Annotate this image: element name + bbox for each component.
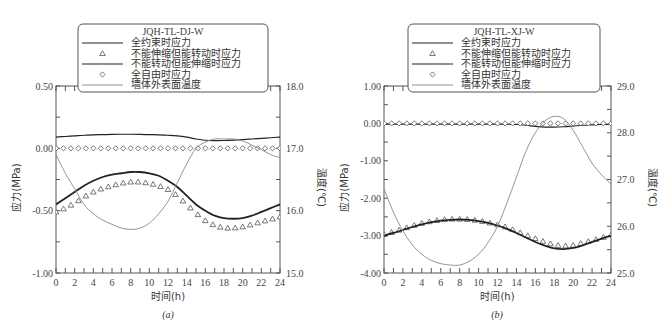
diamond-marker	[188, 146, 193, 151]
diamond-marker	[83, 146, 88, 151]
chart-panel-a: 024681012141618202224-1.00-0.500.000.501…	[10, 24, 328, 321]
diamond-marker	[233, 146, 238, 151]
x-tick-label: 6	[110, 277, 115, 288]
diamond-marker	[502, 121, 507, 126]
x-tick-label: 6	[438, 277, 443, 288]
legend: JQH-TL-XJ-W全约束时应力不能伸缩但能转动时应力不能转动但能伸缩时应力全…	[408, 24, 600, 92]
x-tick-label: 14	[511, 277, 521, 288]
diamond-marker	[510, 121, 515, 126]
diamond-marker	[61, 146, 66, 151]
diamond-marker	[270, 146, 275, 151]
diamond-marker	[98, 146, 103, 151]
triangle-marker	[53, 209, 59, 214]
diamond-marker	[158, 146, 163, 151]
triangle-marker	[262, 218, 268, 223]
x-axis-label: 时间(h)	[480, 290, 514, 302]
diamond-marker	[555, 121, 560, 126]
diamond-marker	[203, 146, 208, 151]
x-tick-label: 14	[182, 277, 192, 288]
y-tick-label: -0.50	[32, 205, 53, 216]
figure: 024681012141618202224-1.00-0.500.000.501…	[0, 0, 664, 335]
panel-caption: (b)	[491, 309, 503, 321]
y2-axis-label: 温度(℃)	[316, 168, 328, 207]
diamond-marker	[173, 146, 178, 151]
legend: JQH-TL-DJ-W全约束时应力不能伸缩但能转动时应力不能转动但能伸缩时应力全…	[78, 24, 268, 92]
triangle-marker	[232, 225, 238, 230]
diamond-marker	[427, 121, 432, 126]
x-tick-label: 16	[530, 277, 540, 288]
series-line	[56, 134, 280, 140]
triangle-marker	[188, 205, 194, 210]
triangle-marker	[540, 238, 546, 243]
diamond-marker	[210, 146, 215, 151]
x-tick-label: 16	[200, 277, 210, 288]
x-tick-label: 2	[72, 277, 77, 288]
y-tick-label: 1.00	[364, 81, 382, 92]
triangle-marker	[277, 214, 283, 219]
triangle-marker	[247, 222, 253, 227]
triangle-marker	[225, 225, 231, 230]
triangle-marker	[105, 184, 111, 189]
x-tick-label: 18	[549, 277, 559, 288]
triangle-marker	[203, 218, 209, 223]
diamond-marker	[389, 121, 394, 126]
y-tick-label: -1.00	[32, 268, 53, 279]
x-tick-label: 20	[568, 277, 578, 288]
diamond-marker	[450, 121, 455, 126]
diamond-marker	[548, 121, 553, 126]
diamond-marker	[106, 146, 111, 151]
legend-label: 全自由时应力	[131, 68, 191, 80]
legend-title: JQH-TL-XJ-W	[473, 26, 535, 37]
diamond-marker	[487, 121, 492, 126]
y2-tick-label: 17.0	[286, 143, 304, 154]
diamond-marker	[53, 146, 58, 151]
x-tick-label: 0	[382, 277, 387, 288]
triangle-marker	[210, 222, 216, 227]
y-tick-label: -2.00	[360, 193, 381, 204]
x-tick-label: 18	[219, 277, 229, 288]
triangle-marker	[548, 241, 554, 246]
legend-label: 墙体外表面温度	[131, 78, 201, 90]
diamond-marker	[68, 146, 73, 151]
diamond-marker	[480, 121, 485, 126]
triangle-marker	[180, 198, 186, 203]
x-tick-label: 2	[400, 277, 405, 288]
panel-caption: (a)	[162, 309, 174, 321]
diamond-marker	[608, 121, 613, 126]
y2-tick-label: 18.0	[286, 81, 304, 92]
diamond-marker	[143, 146, 148, 151]
x-tick-label: 10	[144, 277, 154, 288]
diamond-marker	[412, 121, 417, 126]
triangle-marker	[135, 179, 141, 184]
legend-label: 不能伸缩但能转动时应力	[131, 47, 241, 59]
plot-frame	[384, 86, 611, 273]
diamond-marker	[404, 121, 409, 126]
x-tick-label: 10	[474, 277, 484, 288]
series-line	[56, 172, 280, 219]
x-tick-label: 22	[256, 277, 266, 288]
legend-label: 全约束时应力	[461, 36, 521, 48]
legend-label: 全自由时应力	[461, 68, 521, 80]
triangle-marker	[120, 180, 126, 185]
y2-tick-label: 25.0	[617, 268, 635, 279]
diamond-marker	[225, 146, 230, 151]
y-tick-label: -3.00	[360, 230, 381, 241]
diamond-marker	[128, 146, 133, 151]
triangle-marker	[217, 224, 223, 229]
triangle-marker	[255, 220, 261, 225]
triangle-marker	[61, 206, 67, 211]
diamond-marker	[218, 146, 223, 151]
x-tick-label: 8	[128, 277, 133, 288]
y-axis-label: 应力(MPa)	[338, 163, 350, 211]
y2-axis-label: 温度(℃)	[647, 168, 659, 207]
diamond-marker	[248, 146, 253, 151]
y-tick-label: -4.00	[360, 268, 381, 279]
x-tick-label: 24	[606, 277, 616, 288]
y-tick-label: -1.00	[360, 155, 381, 166]
diamond-marker	[457, 121, 462, 126]
triangle-marker	[533, 236, 539, 241]
diamond-marker	[571, 121, 576, 126]
y2-tick-label: 27.0	[617, 174, 635, 185]
triangle-marker	[150, 181, 156, 186]
diamond-marker	[601, 121, 606, 126]
